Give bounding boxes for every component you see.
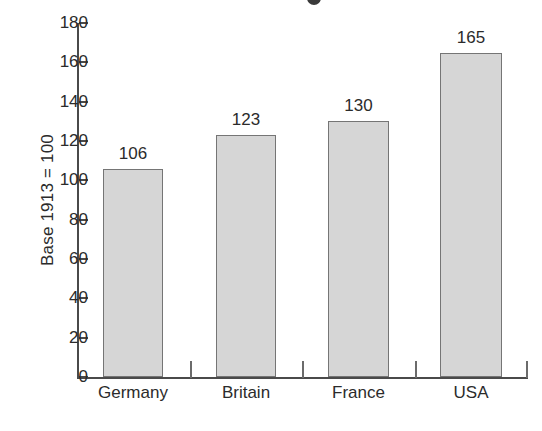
x-tick-mark [415,361,417,378]
x-tick-mark [526,361,528,378]
y-tick-label: 160 [48,53,88,70]
bar-value-label: 130 [308,97,409,114]
y-tick-label: 140 [48,93,88,110]
y-axis-label: Base 1913 = 100 [24,23,72,377]
y-tick-label: 60 [48,250,88,267]
y-tick-label: 0 [48,368,88,385]
y-axis-line [77,23,79,379]
x-tick-mark [302,361,304,378]
y-tick-label: 40 [48,289,88,306]
y-tick-label: 120 [48,132,88,149]
category-label-britain: Britain [186,384,306,401]
category-label-germany: Germany [73,384,193,401]
y-tick-label: 20 [48,329,88,346]
category-label-usa: USA [410,384,532,401]
bar-value-label: 123 [196,111,296,128]
bar-usa [440,53,502,378]
y-tick-label: 180 [48,14,88,31]
cropped-title-fragment [307,0,321,5]
bar-value-label: 165 [420,29,522,46]
bar-germany [103,169,163,377]
category-label-france: France [298,384,419,401]
y-tick-label: 100 [48,171,88,188]
x-tick-mark [190,361,192,378]
bar-value-label: 106 [83,145,183,162]
bar-france [328,121,389,377]
bar-britain [216,135,276,377]
bar-chart: Base 1913 = 100 020406080100120140160180… [0,0,542,431]
y-tick-label: 80 [48,211,88,228]
